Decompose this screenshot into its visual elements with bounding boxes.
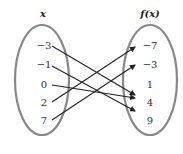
range-values: −7 −3 1 4 9 (143, 40, 158, 126)
domain-value: 7 (41, 115, 47, 126)
domain-value: 2 (41, 97, 47, 108)
range-value: 1 (147, 79, 153, 90)
domain-value: 0 (41, 79, 47, 90)
range-header: f(x) (139, 8, 160, 19)
domain-values: −3 −1 0 2 7 (37, 40, 52, 126)
domain-value: −3 (37, 40, 52, 51)
domain-value: −1 (37, 59, 52, 70)
domain-header: x (39, 8, 47, 19)
range-value: 4 (147, 97, 153, 108)
range-value: −7 (143, 40, 158, 51)
range-value: 9 (147, 115, 153, 126)
range-value: −3 (143, 59, 158, 70)
mapping-diagram: x f(x) −3 −1 0 2 7 −7 −3 1 4 9 (0, 0, 183, 154)
